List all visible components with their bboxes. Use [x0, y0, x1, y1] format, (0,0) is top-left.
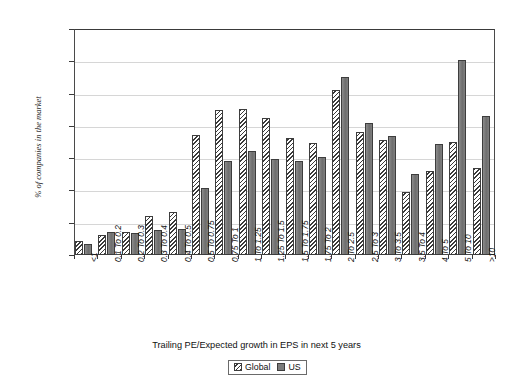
x-tick-mark [191, 255, 192, 259]
legend-swatch-icon [277, 363, 285, 371]
x-tick-mark [74, 255, 75, 259]
x-tick-mark [495, 255, 496, 259]
bar-global [449, 142, 457, 255]
x-tick-mark [214, 255, 215, 259]
bar-us [341, 77, 349, 255]
bar-global [98, 235, 106, 255]
x-tick-mark [355, 255, 356, 259]
bar-global [309, 143, 317, 255]
bar-global [426, 171, 434, 255]
bar-global [192, 135, 200, 255]
x-tick-mark [168, 255, 169, 259]
bar-global [473, 168, 481, 255]
bar-group [238, 29, 261, 255]
x-tick-mark [121, 255, 122, 259]
bar-global [332, 90, 340, 255]
bar-group [74, 29, 97, 255]
bar-group [168, 29, 191, 255]
x-tick-mark [425, 255, 426, 259]
bar-group [121, 29, 144, 255]
bar-group [378, 29, 401, 255]
legend-swatch-icon [234, 363, 242, 371]
bar-group [331, 29, 354, 255]
bar-global [169, 212, 177, 255]
bar-group [214, 29, 237, 255]
bar-group [97, 29, 120, 255]
legend-label: US [288, 362, 300, 372]
x-axis-title: Trailing PE/Expected growth in EPS in ne… [0, 340, 513, 350]
bar-us [482, 116, 490, 255]
x-tick-mark [472, 255, 473, 259]
x-tick-mark [378, 255, 379, 259]
x-tick-mark [144, 255, 145, 259]
bar-global [215, 110, 223, 255]
clipped-title-strip [0, 0, 513, 7]
bar-group [355, 29, 378, 255]
x-tick-mark [331, 255, 332, 259]
x-tick-mark [308, 255, 309, 259]
bar-global [356, 132, 364, 255]
x-tick-mark [448, 255, 449, 259]
bar-global [402, 192, 410, 255]
y-axis-title: % of companies in the market [33, 62, 43, 232]
bar-global [75, 241, 83, 255]
bar-global [286, 138, 294, 255]
bar-group [401, 29, 424, 255]
bar-group [472, 29, 495, 255]
bar-us [458, 60, 466, 255]
bar-group [425, 29, 448, 255]
bar-chart: % of companies in the market 14.00%12.00… [0, 0, 513, 383]
x-tick-mark [401, 255, 402, 259]
bar-group [308, 29, 331, 255]
legend-item-global: Global [234, 362, 270, 372]
x-tick-mark [238, 255, 239, 259]
x-tick-mark [97, 255, 98, 259]
legend-item-us: US [277, 362, 300, 372]
bar-group [448, 29, 471, 255]
bar-global [262, 118, 270, 255]
bar-global [145, 216, 153, 255]
bar-global [379, 140, 387, 255]
legend-label: Global [245, 362, 270, 372]
x-tick-mark [285, 255, 286, 259]
x-tick-mark [261, 255, 262, 259]
bar-group [144, 29, 167, 255]
chart-legend: GlobalUS [228, 360, 307, 375]
